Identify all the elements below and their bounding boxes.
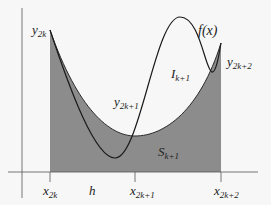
x2k-label: x2k [42, 183, 58, 200]
simpson-rule-diagram: f(x) y2k y2k+1 y2k+2 Ik+1 Sk+1 h x2k x2k… [0, 0, 271, 205]
y2k1-label: y2k+1 [112, 94, 139, 111]
y2k2-label: y2k+2 [225, 54, 252, 71]
x2k1-label: x2k+1 [129, 183, 155, 200]
x2k2-label: x2k+2 [213, 183, 239, 200]
y2k-label: y2k [30, 22, 47, 39]
integral-label: Ik+1 [170, 66, 190, 83]
function-label: f(x) [198, 23, 218, 39]
step-label: h [89, 183, 96, 198]
